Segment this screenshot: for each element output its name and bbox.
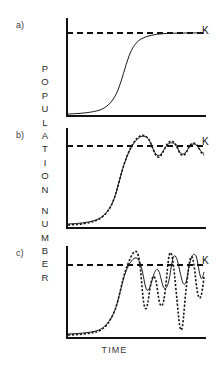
panel-b-label: b) bbox=[16, 131, 24, 140]
y-axis-title-letter: M bbox=[41, 231, 49, 244]
y-axis-title-letter: P bbox=[42, 89, 48, 102]
y-axis-title-letter: N bbox=[42, 183, 49, 196]
panel-a-label: a) bbox=[16, 21, 24, 30]
y-axis-title-letter: B bbox=[42, 244, 48, 257]
panel-b-curves bbox=[66, 128, 206, 230]
y-axis-title-letter: R bbox=[42, 271, 49, 284]
y-axis-title: P O P U L A T I O N N U M B E R bbox=[38, 62, 52, 284]
y-axis-title-letter: U bbox=[42, 102, 49, 115]
x-axis-title-text: TIME bbox=[102, 345, 128, 355]
y-axis-title-letter: A bbox=[42, 129, 48, 142]
population-growth-figure: P O P U L A T I O N N U M B E R a) K bbox=[0, 0, 221, 370]
y-axis-title-letter: O bbox=[41, 75, 48, 88]
panel-b-plot-area bbox=[66, 128, 206, 230]
y-axis-title-letter: U bbox=[42, 217, 49, 230]
y-axis-title-letter: T bbox=[42, 142, 48, 155]
y-axis-title-letter: I bbox=[44, 156, 47, 169]
panel-c-curves bbox=[66, 246, 206, 342]
panel-c-label: c) bbox=[16, 249, 24, 258]
y-axis-title-letter: O bbox=[41, 169, 48, 182]
panel-b-k-label: K bbox=[202, 137, 209, 147]
panel-a-k-label: K bbox=[202, 26, 209, 36]
y-axis-title-letter: L bbox=[42, 116, 47, 129]
y-axis-title-letter: P bbox=[42, 62, 48, 75]
panel-c-plot-area bbox=[66, 246, 206, 342]
x-axis-title: TIME bbox=[0, 345, 221, 355]
y-axis-title-letter: N bbox=[42, 204, 49, 217]
panel-a-curves bbox=[66, 18, 206, 118]
panel-c-k-label: K bbox=[202, 256, 209, 266]
y-axis-title-letter: E bbox=[42, 257, 48, 270]
panel-a-plot-area bbox=[66, 18, 206, 118]
